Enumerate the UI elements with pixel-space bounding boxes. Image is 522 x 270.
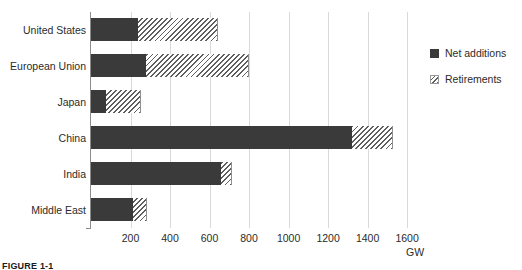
stacked-bar[interactable]	[91, 18, 218, 41]
stacked-bar[interactable]	[91, 198, 147, 221]
bar-segment-retirements[interactable]	[352, 126, 393, 149]
category-label-india: India	[2, 168, 86, 180]
bar-segment-net-additions[interactable]	[91, 162, 221, 185]
bar-row	[91, 156, 416, 192]
category-label-middle-east: Middle East	[2, 204, 86, 216]
category-axis-labels: United StatesEuropean UnionJapanChinaInd…	[0, 12, 86, 228]
x-tick-label-1400: 1400	[356, 231, 379, 245]
stacked-bar[interactable]	[91, 126, 393, 149]
legend-label-retirements: Retirements	[445, 73, 502, 85]
x-tick-label-1600: 1600	[395, 231, 418, 245]
bar-row	[91, 12, 416, 48]
legend-item-retirements[interactable]: Retirements	[430, 73, 522, 85]
x-tick-label-1200: 1200	[316, 231, 339, 245]
legend-label-net-additions: Net additions	[445, 47, 506, 59]
x-tick-label-400: 400	[161, 231, 179, 245]
legend-swatch-solid-icon	[430, 49, 439, 58]
bar-segment-retirements[interactable]	[221, 162, 232, 185]
stacked-bar[interactable]	[91, 54, 249, 77]
category-label-china: China	[2, 132, 86, 144]
bar-segment-retirements[interactable]	[138, 18, 218, 41]
bar-segment-net-additions[interactable]	[91, 126, 352, 149]
x-tick-label-600: 600	[201, 231, 219, 245]
x-axis-tick-labels: 2004006008001000120014001600	[0, 231, 522, 247]
figure-caption: FIGURE 1-1	[2, 261, 54, 270]
bar-row	[91, 48, 416, 84]
stacked-bar[interactable]	[91, 90, 141, 113]
category-label-united-states: United States	[2, 24, 86, 36]
y-axis-line	[90, 12, 91, 229]
chart-legend: Net additions Retirements	[430, 47, 522, 99]
x-tick-label-200: 200	[122, 231, 140, 245]
legend-item-net-additions[interactable]: Net additions	[430, 47, 522, 59]
x-tick-label-800: 800	[240, 231, 258, 245]
bar-segment-retirements[interactable]	[133, 198, 147, 221]
bar-segment-retirements[interactable]	[106, 90, 141, 113]
bar-segment-net-additions[interactable]	[91, 90, 106, 113]
plot-area	[91, 12, 416, 228]
x-tick-label-1000: 1000	[277, 231, 300, 245]
x-axis-origin-tick	[86, 228, 91, 229]
bar-row	[91, 192, 416, 228]
legend-swatch-hatch-icon	[430, 75, 439, 84]
category-label-european-union: European Union	[2, 60, 86, 72]
x-axis-unit-label: GW	[406, 246, 424, 259]
category-label-japan: Japan	[2, 96, 86, 108]
figure-container: United StatesEuropean UnionJapanChinaInd…	[0, 0, 522, 270]
bar-row	[91, 120, 416, 156]
bar-segment-net-additions[interactable]	[91, 18, 138, 41]
bar-segment-net-additions[interactable]	[91, 54, 146, 77]
bar-segment-retirements[interactable]	[146, 54, 249, 77]
bar-segment-net-additions[interactable]	[91, 198, 133, 221]
bar-row	[91, 84, 416, 120]
stacked-bar[interactable]	[91, 162, 232, 185]
